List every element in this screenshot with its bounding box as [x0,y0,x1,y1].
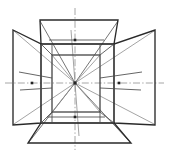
left-face-fold-top [41,44,52,55]
left-face-mid-band [19,72,52,78]
ray-to-top-marker [71,30,75,83]
left-face-mid-band-lower [20,88,52,90]
ray-to-top-left-outer [40,21,75,83]
diagram-canvas: Unfolded box perspective projection diag… [0,0,169,156]
right-face-mid-band-lower [100,88,141,90]
ray-to-inner-top-left [52,55,75,83]
projection-drawing [0,0,169,156]
top-marker [74,39,77,42]
bottom-marker [74,116,77,119]
left-face-fold-bottom [41,112,52,123]
right-face-fold-top [100,44,114,55]
point-markers-group [31,39,121,119]
vanishing-point-marker [73,81,76,84]
right-marker [118,82,121,85]
ray-to-bottom-marker [75,83,79,136]
centre-lines-group [5,8,164,150]
ray-to-inner-bottom-left [52,83,75,112]
right-face-fold-bottom [100,112,114,123]
ray-to-left-bottom [14,83,75,124]
bottom-face [28,112,131,143]
left-marker [31,82,34,85]
left-face-outline [13,30,41,125]
ray-to-left-top [14,31,75,83]
ray-to-inner-bottom-right [75,83,100,112]
ray-to-top-right-outer [75,21,118,83]
right-face-mid-band [100,72,142,78]
